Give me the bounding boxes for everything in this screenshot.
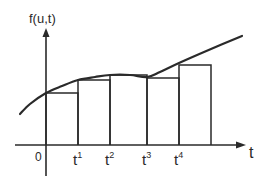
step-rectangle — [179, 65, 211, 145]
step-function-diagram: f(u,t) t 0 t1t2t3t4 — [0, 0, 265, 185]
y-axis-arrow-icon — [43, 28, 50, 37]
origin-label: 0 — [35, 150, 42, 164]
x-axis-label: t — [249, 144, 254, 161]
function-curve — [20, 36, 242, 114]
tick-label-t1: t1 — [73, 150, 82, 168]
tick-label-t2: t2 — [105, 150, 114, 168]
step-rectangle — [147, 78, 179, 145]
step-rectangles — [46, 65, 211, 145]
y-axis-label: f(u,t) — [29, 11, 56, 26]
tick-label-t3: t3 — [142, 150, 151, 168]
tick-label-t4: t4 — [174, 150, 183, 168]
step-rectangle — [110, 75, 147, 145]
step-rectangle — [78, 80, 110, 145]
x-axis-arrow-icon — [236, 142, 246, 149]
tick-labels: t1t2t3t4 — [73, 150, 183, 168]
step-rectangle — [46, 93, 78, 145]
